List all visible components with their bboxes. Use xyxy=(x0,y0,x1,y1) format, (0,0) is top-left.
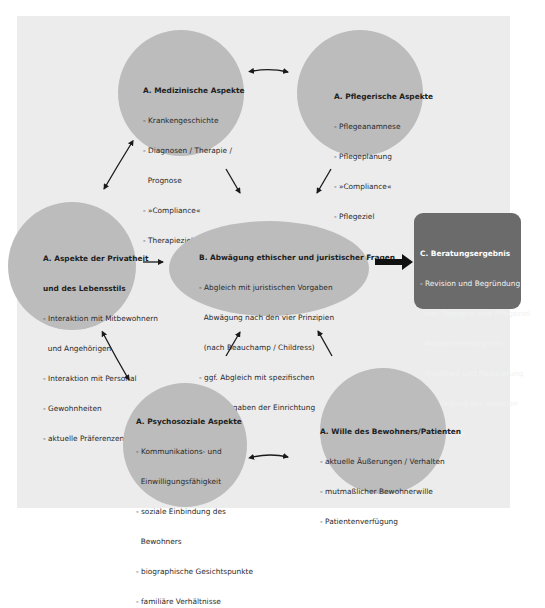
list-item: - Patientenverfügung xyxy=(320,517,461,527)
list-item: - Pflegeplanung xyxy=(334,152,433,162)
list-item: Einwilligungsfähigkeit xyxy=(136,477,253,487)
node-nursing-text: A. Pflegerische Aspekte - Pflegeanamnese… xyxy=(334,72,433,232)
list-item: - »Compliance« xyxy=(143,206,245,216)
node-will-title: A. Wille des Bewohners/Patienten xyxy=(320,427,461,437)
node-will-text: A. Wille des Bewohners/Patienten - aktue… xyxy=(320,407,461,537)
list-item: Prognose xyxy=(143,176,245,186)
node-medical-title: A. Medizinische Aspekte xyxy=(143,86,245,96)
list-item: (nach Beauchamp / Childress) xyxy=(199,343,395,353)
node-psychosocial-title: A. Psychosoziale Aspekte xyxy=(136,417,253,427)
node-result-title: C. Beratungsergebnis xyxy=(420,249,530,259)
list-item: - soziale Einbindung des xyxy=(136,507,253,517)
list-item: - Neubestimmung von xyxy=(420,339,530,349)
list-item: und Angehörigen xyxy=(43,344,158,354)
list-item: - Kommunikations- und xyxy=(136,447,253,457)
list-item: Privatheit und Regulierung xyxy=(420,369,530,379)
list-item: von Therapie- und Pflegeziel xyxy=(420,309,530,319)
list-item: - Pflegeanamnese xyxy=(334,122,433,132)
node-privacy-title-line1: A. Aspekte der Privatheit xyxy=(43,254,158,264)
node-result: C. Beratungsergebnis - Revision und Begr… xyxy=(414,213,521,309)
list-item: - Interaktion mit Personal xyxy=(43,374,158,384)
list-item: - aktuelle Äußerungen / Verhalten xyxy=(320,457,461,467)
list-item: - biographische Gesichtspunkte xyxy=(136,567,253,577)
list-item: Abwägung nach den vier Prinzipien xyxy=(199,313,395,323)
list-item: - mutmaßlicher Bewohnerwille xyxy=(320,487,461,497)
node-deliberation-title: B. Abwägung ethischer und juristischer F… xyxy=(199,253,395,263)
list-item: - Krankengeschichte xyxy=(143,116,245,126)
list-item: Bewohners xyxy=(136,537,253,547)
list-item: - Revision und Begründung xyxy=(420,279,530,289)
list-item: - Abgleich mit juristischen Vorgaben xyxy=(199,283,395,293)
node-privacy-title-line2: und des Lebensstils xyxy=(43,284,158,294)
node-psychosocial-text: A. Psychosoziale Aspekte - Kommunikation… xyxy=(136,397,253,608)
list-item: - familiäre Verhältnisse xyxy=(136,597,253,607)
list-item: - »Compliance« xyxy=(334,182,433,192)
list-item: - Interaktion mit Mitbewohnern xyxy=(43,314,158,324)
node-nursing-title: A. Pflegerische Aspekte xyxy=(334,92,433,102)
list-item: - Diagnosen / Therapie / xyxy=(143,146,245,156)
